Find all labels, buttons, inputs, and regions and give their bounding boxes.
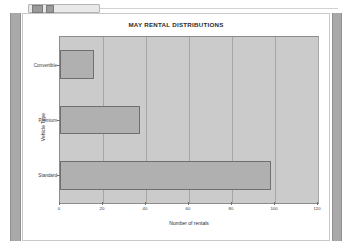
y-tick-label: Convertible (34, 62, 57, 67)
x-tick-label: 40 (143, 206, 148, 211)
gridline-vertical (318, 37, 319, 203)
x-tick-mark (231, 202, 232, 205)
y-axis-label: Vehicle Type (40, 113, 46, 141)
bar (60, 50, 94, 79)
x-tick-label: 100 (270, 206, 277, 211)
x-tick-mark (145, 202, 146, 205)
y-tick-label: Standard (38, 173, 57, 178)
x-axis-label: Number of rentals (59, 220, 319, 226)
application-window: MAY RENTAL DISTRIBUTIONS StandardPremium… (0, 0, 352, 249)
vertical-scrollbar-left[interactable] (10, 13, 21, 241)
toolbar-divider (100, 8, 338, 9)
window-toolbar[interactable] (28, 4, 100, 13)
x-tick-mark (188, 202, 189, 205)
x-tick-mark (317, 202, 318, 205)
x-tick-mark (274, 202, 275, 205)
bar (60, 161, 271, 190)
y-tick-mark (57, 120, 60, 121)
x-tick-label: 120 (313, 206, 320, 211)
x-tick-label: 80 (229, 206, 234, 211)
x-tick-mark (59, 202, 60, 205)
bar (60, 106, 140, 135)
minimize-button[interactable] (32, 5, 43, 13)
gridline-vertical (275, 37, 276, 203)
y-tick-mark (57, 175, 60, 176)
x-tick-label: 0 (58, 206, 60, 211)
plot-area: StandardPremiumConvertible (59, 36, 319, 204)
vertical-scrollbar-right[interactable] (332, 13, 342, 241)
x-tick-label: 20 (100, 206, 105, 211)
chart-canvas: MAY RENTAL DISTRIBUTIONS StandardPremium… (22, 13, 330, 241)
chart-title: MAY RENTAL DISTRIBUTIONS (23, 21, 329, 28)
y-tick-mark (57, 65, 60, 66)
maximize-button[interactable] (46, 5, 54, 13)
x-tick-label: 60 (186, 206, 191, 211)
x-tick-mark (102, 202, 103, 205)
